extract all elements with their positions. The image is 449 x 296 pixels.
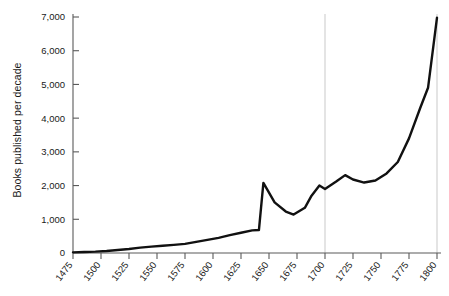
y-tick-label: 4,000 xyxy=(41,113,65,124)
x-tick-label: 1700 xyxy=(305,259,327,282)
x-tick-label: 1575 xyxy=(165,259,187,282)
x-ticks-group xyxy=(73,253,437,259)
x-tick-label: 1750 xyxy=(361,259,383,282)
x-tick-label: 1650 xyxy=(249,259,271,282)
y-tick-label: 6,000 xyxy=(41,45,65,56)
x-tick-label: 1625 xyxy=(221,259,243,282)
x-tick-label: 1800 xyxy=(417,259,439,282)
x-tick-label: 1725 xyxy=(333,259,355,282)
data-series-group xyxy=(73,18,437,253)
y-tick-label: 3,000 xyxy=(41,146,65,157)
x-tick-label: 1550 xyxy=(137,259,159,282)
x-tick-labels-group: 1475150015251550157516001625165016751700… xyxy=(53,259,439,282)
x-tick-label: 1675 xyxy=(277,259,299,282)
x-tick-label: 1775 xyxy=(389,259,411,282)
line-chart-svg: 01,0002,0003,0004,0005,0006,0007,000 147… xyxy=(0,0,449,296)
y-tick-label: 2,000 xyxy=(41,180,65,191)
chart-container: Books published per decade 01,0002,0003,… xyxy=(0,0,449,296)
x-tick-label: 1475 xyxy=(53,259,75,282)
data-line xyxy=(73,18,437,253)
gridlines-group xyxy=(325,14,437,253)
y-tick-label: 1,000 xyxy=(41,214,65,225)
axes-group xyxy=(73,14,441,253)
y-tick-label: 7,000 xyxy=(41,11,65,22)
y-tick-label: 5,000 xyxy=(41,79,65,90)
x-tick-label: 1525 xyxy=(109,259,131,282)
y-ticks-group xyxy=(73,17,79,219)
y-tick-labels-group: 01,0002,0003,0004,0005,0006,0007,000 xyxy=(41,11,65,258)
x-tick-label: 1500 xyxy=(81,259,103,282)
x-tick-label: 1600 xyxy=(193,259,215,282)
y-tick-label: 0 xyxy=(60,247,65,258)
